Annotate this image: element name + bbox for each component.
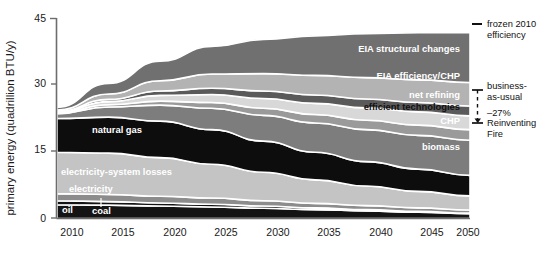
x-tick-2015: 2015 [111, 226, 135, 238]
legend-delta: –27% [487, 108, 511, 118]
y-tick-45: 45 [34, 12, 46, 24]
legend-bau-line1: business- [487, 81, 527, 91]
y-tick-15: 15 [34, 143, 46, 155]
band-label-biomass: biomass [422, 141, 460, 152]
band-label-eia-efficiency-chp: EIA efficiency/CHP [376, 70, 460, 81]
y-tick-30: 30 [34, 77, 46, 89]
band-label-natural-gas: natural gas [92, 124, 142, 135]
legend-reinventing-line2: Fire [487, 129, 503, 139]
y-tick-0: 0 [40, 212, 46, 224]
legend-reinventing-line1: Reinventing [487, 118, 536, 128]
band-label-efficient-technologies: efficient technologies [364, 101, 460, 112]
x-tick-2045: 2045 [420, 226, 444, 238]
x-tick-2025: 2025 [214, 226, 238, 238]
band-label-electricity-system-losses: electricity-system losses [61, 166, 172, 177]
chart-overlay: primary energy (quadrillion BTU/y) 45 30… [0, 0, 541, 253]
x-tick-2020: 2020 [163, 226, 187, 238]
band-label-oil: oil [62, 204, 73, 215]
y-axis-title: primary energy (quadrillion BTU/y) [4, 40, 16, 215]
legend-frozen-line2: efficiency [487, 30, 526, 40]
legend-frozen-line1: frozen 2010 [487, 19, 536, 29]
band-label-electricity: electricity [69, 183, 114, 194]
x-tick-2010: 2010 [60, 226, 84, 238]
legend-bau-line2: as-usual [487, 92, 522, 102]
x-tick-2040: 2040 [369, 226, 393, 238]
band-label-chp: CHP [440, 115, 460, 126]
band-label-eia-structural-changes: EIA structural changes [358, 43, 460, 54]
band-label-net-refining: net refining [409, 89, 460, 100]
x-tick-2035: 2035 [317, 226, 341, 238]
x-tick-2030: 2030 [266, 226, 290, 238]
stacked-area-chart: primary energy (quadrillion BTU/y) 45 30… [0, 0, 541, 253]
x-tick-2050: 2050 [456, 226, 480, 238]
